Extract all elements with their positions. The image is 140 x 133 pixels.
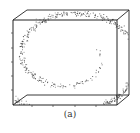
bounding-box-back-face [13, 10, 129, 105]
axis-ticks [11, 33, 96, 107]
data-points [15, 11, 129, 105]
figure-caption: (a) [0, 109, 140, 119]
